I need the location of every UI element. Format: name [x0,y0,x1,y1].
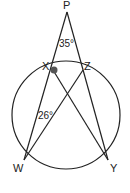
geometry-diagram: P X Z W Y 35° 26° [0,0,130,193]
label-Y: Y [110,162,118,174]
segment-ZW [24,70,83,160]
segment-PW [24,12,67,160]
segment-XY [53,70,108,160]
point-X-marker [51,67,58,74]
label-X: X [42,60,50,72]
label-W: W [13,162,24,174]
angle-W-label: 26° [38,110,53,121]
label-P: P [63,0,70,11]
label-Z: Z [84,60,91,72]
angle-P-label: 35° [59,38,74,49]
